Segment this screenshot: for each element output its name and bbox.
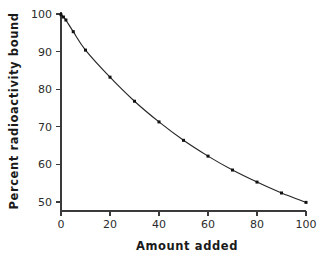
y-tick-label: 60	[38, 158, 52, 171]
x-tick-label: 100	[296, 218, 317, 231]
data-point-marker	[231, 169, 234, 172]
data-point-marker	[72, 30, 75, 33]
y-axis-ticks	[56, 14, 61, 202]
y-axis-title: Percent radioactivity bound	[7, 12, 21, 209]
y-tick-label: 70	[38, 121, 52, 134]
data-point-marker	[207, 155, 210, 158]
chart-plot-area: 100 90 80 70 60 50 0 20 40 60 80 100 Amo…	[0, 0, 328, 260]
x-axis-title: Amount added	[136, 239, 238, 253]
y-tick-label: 80	[38, 83, 52, 96]
data-point-marker	[305, 201, 308, 204]
data-point-marker	[64, 19, 67, 22]
data-series-markers	[60, 13, 308, 204]
chart-figure: 100 90 80 70 60 50 0 20 40 60 80 100 Amo…	[0, 0, 328, 260]
data-point-marker	[182, 139, 185, 142]
y-tick-label: 90	[38, 46, 52, 59]
data-series-line	[61, 15, 306, 203]
x-tick-label: 60	[201, 218, 215, 231]
data-point-marker	[133, 100, 136, 103]
x-tick-label: 40	[152, 218, 166, 231]
y-axis-tick-labels: 100 90 80 70 60 50	[31, 8, 52, 209]
data-point-marker	[109, 76, 112, 79]
x-tick-label: 20	[103, 218, 117, 231]
x-axis-tick-labels: 0 20 40 60 80 100	[58, 218, 317, 231]
data-point-marker	[158, 120, 161, 123]
data-point-marker	[84, 49, 87, 52]
x-axis-ticks	[61, 211, 306, 216]
y-tick-label: 50	[38, 196, 52, 209]
data-point-marker	[280, 191, 283, 194]
data-point-marker	[256, 181, 259, 184]
data-point-marker	[62, 16, 65, 19]
x-tick-label: 0	[58, 218, 65, 231]
y-tick-label: 100	[31, 8, 52, 21]
x-tick-label: 80	[250, 218, 264, 231]
